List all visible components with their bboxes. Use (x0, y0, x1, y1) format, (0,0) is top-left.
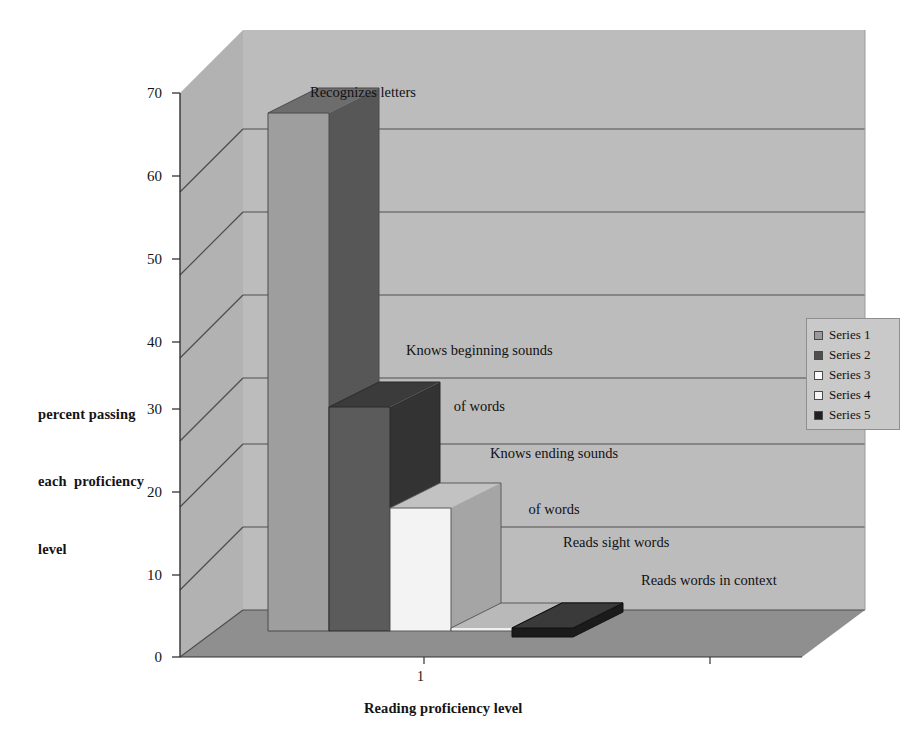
side-wall (180, 30, 243, 657)
legend-label-series-2: Series 2 (829, 347, 871, 363)
y-tick-marks (172, 93, 180, 657)
bar-chart-figure: 70 60 50 40 30 20 10 0 percent passing e… (0, 0, 916, 739)
bar-series-3 (390, 483, 501, 631)
legend-swatch-series-4 (814, 391, 823, 400)
x-axis-title: Reading proficiency level (364, 699, 523, 718)
y-axis-title-line2: each proficiency (38, 470, 144, 492)
legend-item-series-4[interactable]: Series 4 (814, 385, 893, 405)
y-tick-label-0: 0 (128, 648, 162, 667)
annotation-2-line1: Knows beginning sounds (406, 341, 553, 360)
y-tick-label-70: 70 (128, 84, 162, 103)
legend-item-series-2[interactable]: Series 2 (814, 345, 893, 365)
legend-label-series-1: Series 1 (829, 327, 871, 343)
y-tick-label-60: 60 (128, 167, 162, 186)
y-axis-title-line3: level (38, 538, 144, 560)
y-axis-title-line1: percent passing (38, 403, 144, 425)
y-tick-label-40: 40 (128, 333, 162, 352)
legend-swatch-series-2 (814, 351, 823, 360)
legend: Series 1 Series 2 Series 3 Series 4 Seri… (806, 318, 900, 430)
y-axis-title: percent passing each proficiency level (38, 358, 144, 605)
legend-item-series-1[interactable]: Series 1 (814, 325, 893, 345)
annotation-words-in-context: Reads words in context (641, 533, 777, 627)
x-category-label: 1 (417, 668, 424, 686)
bar-series-2-front (329, 407, 390, 631)
legend-label-series-4: Series 4 (829, 387, 871, 403)
legend-label-series-5: Series 5 (829, 407, 871, 423)
legend-swatch-series-1 (814, 331, 823, 340)
legend-item-series-5[interactable]: Series 5 (814, 405, 893, 425)
annotation-5-line1: Reads words in context (641, 571, 777, 590)
bar-series-3-front (390, 508, 451, 631)
y-tick-label-50: 50 (128, 250, 162, 269)
legend-swatch-series-3 (814, 371, 823, 380)
bar-series-1-front (268, 113, 329, 631)
annotation-3-line1: Knows ending sounds (490, 444, 618, 463)
legend-item-series-3[interactable]: Series 3 (814, 365, 893, 385)
legend-swatch-series-5 (814, 411, 823, 420)
legend-label-series-3: Series 3 (829, 367, 871, 383)
annotation-recognizes-letters: Recognizes letters (310, 45, 416, 139)
annotation-1-line1: Recognizes letters (310, 83, 416, 102)
